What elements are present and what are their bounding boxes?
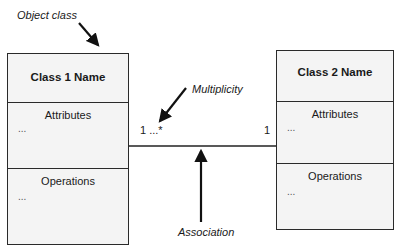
class1-attributes-label: Attributes	[8, 109, 128, 121]
class2-attributes-label: Attributes	[277, 108, 393, 120]
class2-name-section: Class 2 Name	[277, 51, 393, 101]
class2-operations-label: Operations	[277, 170, 393, 182]
class1-attributes-section: Attributes ...	[8, 102, 128, 168]
object-class-annotation: Object class	[17, 9, 77, 21]
class1-name-section: Class 1 Name	[8, 54, 128, 102]
multiplicity-annotation: Multiplicity	[192, 83, 243, 95]
class2-operations-section: Operations ...	[277, 163, 393, 229]
class1-name: Class 1 Name	[8, 71, 128, 83]
class1-attributes-placeholder: ...	[18, 123, 26, 134]
class2-name: Class 2 Name	[277, 66, 393, 78]
class1-operations-label: Operations	[8, 175, 128, 187]
left-multiplicity: 1 ...*	[140, 124, 163, 136]
object-class-arrow	[79, 23, 98, 45]
class2-attributes-placeholder: ...	[287, 122, 295, 133]
class1-operations-placeholder: ...	[18, 191, 26, 202]
multiplicity-arrow	[160, 88, 186, 121]
association-annotation: Association	[178, 226, 234, 238]
class2-box[interactable]: Class 2 Name Attributes ... Operations .…	[276, 50, 394, 230]
class1-operations-section: Operations ...	[8, 168, 128, 244]
class2-attributes-section: Attributes ...	[277, 101, 393, 163]
right-multiplicity: 1	[264, 124, 270, 136]
class2-operations-placeholder: ...	[287, 186, 295, 197]
class1-box[interactable]: Class 1 Name Attributes ... Operations .…	[7, 53, 129, 245]
